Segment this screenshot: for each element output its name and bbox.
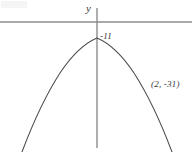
vertex-value-label: -11 xyxy=(100,32,112,41)
y-axis-label: y xyxy=(86,3,91,14)
parabola-figure: y -11 (2, -31) xyxy=(0,0,192,152)
point-coordinate-label: (2, -31) xyxy=(151,80,180,89)
graph-canvas xyxy=(0,0,192,152)
